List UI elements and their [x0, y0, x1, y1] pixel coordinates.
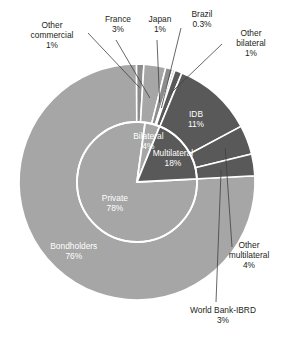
callout-brazil: Brazil 0.3%: [181, 9, 223, 29]
callout-other-multilateral-line1: Other: [239, 240, 260, 250]
callout-other-multilateral-line2: multilateral: [229, 250, 270, 260]
callout-other-multilateral: Other multilateral 4%: [218, 240, 280, 271]
callout-other-bilateral-line2: bilateral: [236, 38, 265, 48]
inner-label-multilateral: Multilateral: [153, 148, 194, 158]
pie-chart-figure: Private78%Bilateral4%Multilateral18%Bond…: [0, 0, 286, 338]
outer-label-idb-pct: 11%: [188, 119, 205, 129]
callout-world-bank-ibrd-pct: 3%: [168, 315, 278, 325]
callout-france-pct: 3%: [96, 24, 140, 34]
inner-label-private: Private: [102, 193, 128, 203]
callout-japan-name: Japan: [149, 14, 172, 24]
callout-world-bank-ibrd-name: World Bank-IBRD: [190, 305, 256, 315]
callout-other-commercial-pct: 1%: [14, 40, 90, 50]
outer-label-bondholders: Bondholders: [50, 241, 97, 251]
callout-other-multilateral-pct: 4%: [218, 260, 280, 270]
inner-label-private-pct: 78%: [107, 203, 124, 213]
callout-brazil-name: Brazil: [192, 9, 213, 19]
outer-label-idb: IDB: [189, 109, 203, 119]
callout-other-bilateral-line1: Other: [241, 28, 262, 38]
callout-other-bilateral: Other bilateral 1%: [222, 28, 280, 59]
callout-other-commercial: Other commercial 1%: [14, 20, 90, 51]
callout-brazil-pct: 0.3%: [181, 19, 223, 29]
callout-other-commercial-line1: Other: [42, 20, 63, 30]
outer-label-bondholders-pct: 76%: [65, 251, 82, 261]
callout-france: France 3%: [96, 14, 140, 34]
callout-other-commercial-line2: commercial: [31, 30, 74, 40]
callout-japan: Japan 1%: [140, 14, 180, 34]
callout-japan-pct: 1%: [140, 24, 180, 34]
inner-label-multilateral-pct: 18%: [165, 158, 182, 168]
callout-world-bank-ibrd: World Bank-IBRD 3%: [168, 305, 278, 325]
callout-other-bilateral-pct: 1%: [222, 48, 280, 58]
inner-label-bilateral: Bilateral: [133, 131, 163, 141]
callout-france-name: France: [105, 14, 131, 24]
